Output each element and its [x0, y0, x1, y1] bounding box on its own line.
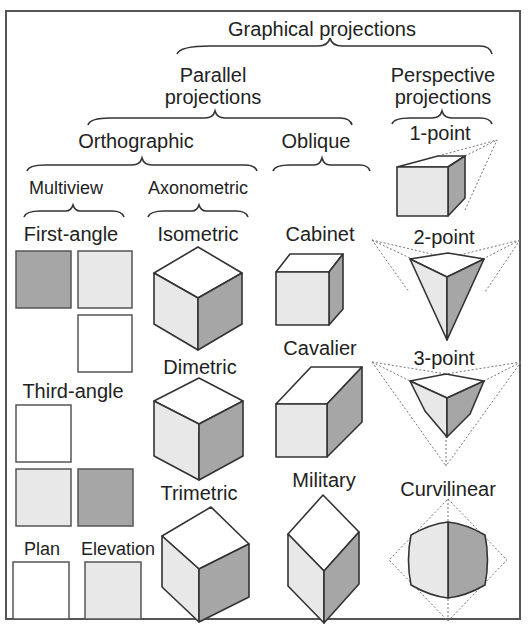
projection-taxonomy-diagram: Graphical projections Parallel projectio…	[0, 0, 528, 633]
dimetric-cube	[154, 378, 243, 480]
label-2-point: 2-point	[413, 226, 475, 248]
trimetric-cube	[162, 507, 249, 622]
title-graphical-projections: Graphical projections	[228, 18, 416, 40]
three-point-perspective-cube	[372, 362, 521, 466]
third-angle-top-view	[16, 405, 71, 462]
brace-oblique	[273, 158, 370, 171]
isometric-cube	[154, 247, 242, 350]
label-elevation: Elevation	[81, 539, 155, 559]
label-dimetric: Dimetric	[163, 356, 236, 378]
label-parallel-1: Parallel	[180, 64, 247, 86]
label-third-angle: Third-angle	[22, 380, 123, 402]
one-point-perspective-cube	[397, 140, 497, 216]
first-angle-side-view	[78, 251, 132, 308]
label-orthographic: Orthographic	[78, 130, 194, 152]
brace-axonometric	[148, 205, 248, 217]
third-angle-side-view	[78, 469, 133, 526]
first-angle-top-view	[78, 315, 132, 372]
label-military: Military	[292, 469, 355, 491]
first-angle-front-view	[16, 251, 71, 308]
third-angle-front-view	[16, 469, 71, 526]
curvilinear-perspective-cube	[389, 499, 507, 621]
label-3-point: 3-point	[413, 347, 475, 369]
label-oblique: Oblique	[282, 130, 351, 152]
brace-graphical	[177, 38, 492, 54]
label-cavalier: Cavalier	[283, 337, 357, 359]
label-perspective-1: Perspective	[391, 64, 496, 86]
label-axonometric: Axonometric	[148, 178, 248, 198]
label-multiview: Multiview	[29, 178, 104, 198]
label-first-angle: First-angle	[24, 223, 118, 245]
two-point-perspective-cube	[372, 240, 520, 340]
label-curvilinear: Curvilinear	[400, 478, 496, 500]
cavalier-cube	[276, 367, 362, 457]
label-isometric: Isometric	[157, 223, 238, 245]
label-cabinet: Cabinet	[286, 223, 355, 245]
label-perspective-2: projections	[395, 86, 492, 108]
label-trimetric: Trimetric	[160, 482, 237, 504]
cabinet-cube	[276, 254, 343, 325]
elevation-view	[85, 562, 141, 619]
brace-multiview	[24, 205, 124, 217]
brace-orthographic	[27, 158, 257, 171]
brace-parallel	[88, 111, 352, 125]
plan-view	[13, 562, 69, 619]
label-plan: Plan	[24, 539, 60, 559]
label-parallel-2: projections	[165, 86, 262, 108]
label-1-point: 1-point	[409, 122, 471, 144]
military-cube	[288, 495, 359, 623]
